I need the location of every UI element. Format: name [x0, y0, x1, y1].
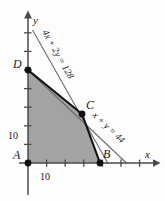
- vertex-point-a: [25, 160, 32, 167]
- x-axis-label: x: [144, 148, 150, 160]
- feasible-region-shading: [28, 70, 100, 163]
- y-axis-label: y: [32, 14, 38, 26]
- line-label-x-y-44: x + y = 44: [90, 109, 127, 145]
- vertex-label-d: D: [12, 57, 22, 71]
- vertex-point-d: [25, 67, 32, 74]
- x-axis-tick-label-10: 10: [40, 171, 50, 182]
- vertex-label-b: B: [103, 147, 111, 161]
- vertex-label-a: A: [12, 148, 21, 162]
- vertex-label-c: C: [86, 98, 95, 112]
- y-axis-tick-label-10: 10: [8, 130, 18, 141]
- graph-figure: A B C D x y 10 10 4x + 2y = 128 x + y = …: [0, 0, 165, 201]
- line-label-4x-2y-128: 4x + 2y = 128: [40, 28, 76, 81]
- vertex-point-c: [79, 111, 86, 118]
